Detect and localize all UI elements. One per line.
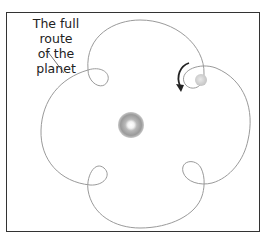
central-body-icon [118, 112, 144, 138]
route-label: The full route of the planet [16, 16, 96, 76]
route-label-line1: The full route [16, 16, 96, 46]
planet-icon [195, 74, 207, 86]
direction-arrow-icon [176, 63, 189, 92]
route-label-line2: of the planet [16, 46, 96, 76]
